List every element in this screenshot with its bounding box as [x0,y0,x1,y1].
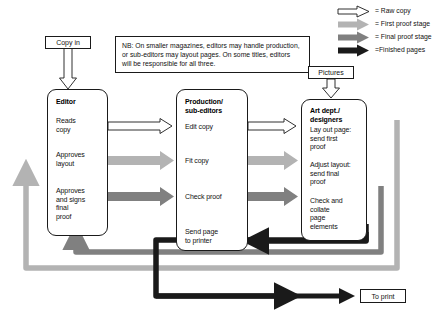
column-production-sub-editors: Production/sub-editors Edit copy Fit cop… [176,89,248,251]
column-art-dept-designers: Art dept./designers Lay out page:send fi… [301,99,367,241]
finished-pages-arrow-icon [337,43,371,56]
arrow-editor-to-production-final-proof [108,187,174,206]
note-line-1: NB: On smaller magazines, editors may ha… [122,41,303,50]
legend-label-finished-pages: =Finished pages [371,46,425,53]
legend-item-finished-pages: =Finished pages [337,43,445,56]
note-line-2: or sub-editors may layout pages. On some… [122,50,303,59]
output-label-to-print: To print [372,293,395,300]
input-box-pictures: Pictures [308,66,354,79]
art-dept-step-2: Adjust layout:send finalproof [310,161,351,187]
arrow-pictures-down [323,79,340,98]
output-box-to-print: To print [360,289,406,303]
input-label-pictures: Pictures [318,69,343,76]
input-box-copy-in: Copy in [45,36,91,49]
production-step-3: Check proof [185,193,222,202]
column-title-editor: Editor [56,98,76,107]
production-step-4: Send pageto printer [185,228,218,245]
input-label-copy-in: Copy in [56,39,80,46]
arrow-to-print [156,288,355,304]
editor-step-3: Approvesand signsfinalproof [56,187,85,221]
arrow-production-to-art-final-proof [248,187,298,206]
legend-item-raw-copy: = Raw copy [337,4,445,17]
legend: = Raw copy = First proof stage = Final p… [337,4,445,56]
final-proof-arrow-icon [337,30,371,43]
raw-copy-arrow-icon [337,4,371,17]
production-step-1: Edit copy [185,123,213,132]
first-proof-arrow-icon [337,17,371,30]
legend-item-first-proof-stage: = First proof stage [337,17,445,30]
legend-label-final-proof-stage: = Final proof stage [371,33,432,40]
column-editor: Editor Readscopy Approveslayout Approves… [47,89,108,236]
arrow-production-to-art-raw-copy [248,119,296,134]
legend-item-final-proof-stage: = Final proof stage [337,30,445,43]
column-title-art-dept: Art dept./designers [310,107,342,124]
production-step-2: Fit copy [185,157,209,166]
editor-step-1: Readscopy [56,117,76,134]
legend-label-first-proof-stage: = First proof stage [371,20,430,27]
arrow-production-to-art-first-proof [248,151,298,170]
arrow-editor-to-production-raw-copy [108,119,172,134]
legend-label-raw-copy: = Raw copy [371,7,411,14]
art-dept-step-1: Lay out page:send firstproof [310,126,351,152]
arrow-copy-in-down [60,47,77,89]
workflow-diagram: = Raw copy = First proof stage = Final p… [0,0,447,316]
note-box: NB: On smaller magazines, editors may ha… [115,36,310,73]
arrow-editor-to-production-first-proof [108,151,174,170]
column-title-production: Production/sub-editors [185,98,223,115]
art-dept-step-3: Check andcollatepageelements [310,197,343,231]
editor-step-2: Approveslayout [56,151,85,168]
note-line-3: will be responsible for all three. [122,59,303,68]
